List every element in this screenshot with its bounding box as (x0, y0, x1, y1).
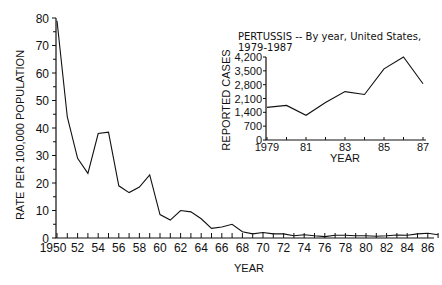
inset-x-tick-label: 81 (300, 141, 312, 153)
x-tick-label: 1950 (40, 241, 67, 255)
x-tick-label: 70 (256, 241, 270, 255)
inset-y-axis: 07001,4002,1002,8003,5004,200 (234, 51, 266, 146)
inset-x-tick-label: 1979 (255, 141, 279, 153)
x-tick-label: 62 (174, 241, 188, 255)
y-tick-label: 80 (36, 12, 50, 26)
y-tick-label: 30 (36, 149, 50, 163)
x-tick-label: 66 (215, 241, 229, 255)
x-tick-label: 60 (153, 241, 167, 255)
inset-x-tick-label: 85 (378, 141, 390, 153)
y-tick-label: 40 (36, 122, 50, 136)
x-tick-label: 80 (359, 241, 373, 255)
y-tick-label: 20 (36, 177, 50, 191)
x-tick-label: 74 (298, 241, 312, 255)
x-tick-label: 52 (71, 241, 85, 255)
x-tick-label: 58 (133, 241, 147, 255)
x-tick-label: 72 (277, 241, 291, 255)
x-tick-label: 76 (318, 241, 332, 255)
inset-x-axis-title: YEAR (330, 152, 360, 164)
chart-canvas: RATE PER 100,000 POPULATION 010203040506… (0, 0, 442, 285)
y-tick-label: 50 (36, 94, 50, 108)
main-y-axis: 01020304050607080 (36, 12, 56, 246)
main-y-axis-title: RATE PER 100,000 POPULATION (14, 50, 26, 220)
inset-x-tick-label: 87 (417, 141, 429, 153)
inset-y-tick-label: 1,400 (234, 106, 262, 118)
inset-chart: PERTUSSIS -- By year, United States, 197… (220, 31, 429, 164)
x-tick-label: 86 (421, 241, 435, 255)
x-tick-label: 68 (236, 241, 250, 255)
inset-y-tick-label: 2,800 (234, 79, 262, 91)
x-tick-label: 84 (401, 241, 415, 255)
y-tick-label: 10 (36, 204, 50, 218)
y-tick-label: 70 (36, 39, 50, 53)
main-x-axis-title: YEAR (234, 262, 264, 274)
x-tick-label: 82 (380, 241, 394, 255)
inset-title-line1: PERTUSSIS -- By year, United States, (238, 31, 421, 42)
inset-y-tick-label: 4,200 (234, 51, 262, 63)
inset-y-tick-label: 2,100 (234, 93, 262, 105)
inset-axes (266, 57, 426, 140)
x-tick-label: 54 (92, 241, 106, 255)
inset-y-tick-label: 3,500 (234, 65, 262, 77)
x-tick-label: 64 (195, 241, 209, 255)
inset-y-tick-label: 700 (244, 120, 262, 132)
y-tick-label: 60 (36, 67, 50, 81)
inset-series-line (267, 57, 423, 115)
x-tick-label: 56 (112, 241, 126, 255)
inset-y-axis-title: REPORTED CASES (220, 49, 232, 150)
x-tick-label: 78 (339, 241, 353, 255)
